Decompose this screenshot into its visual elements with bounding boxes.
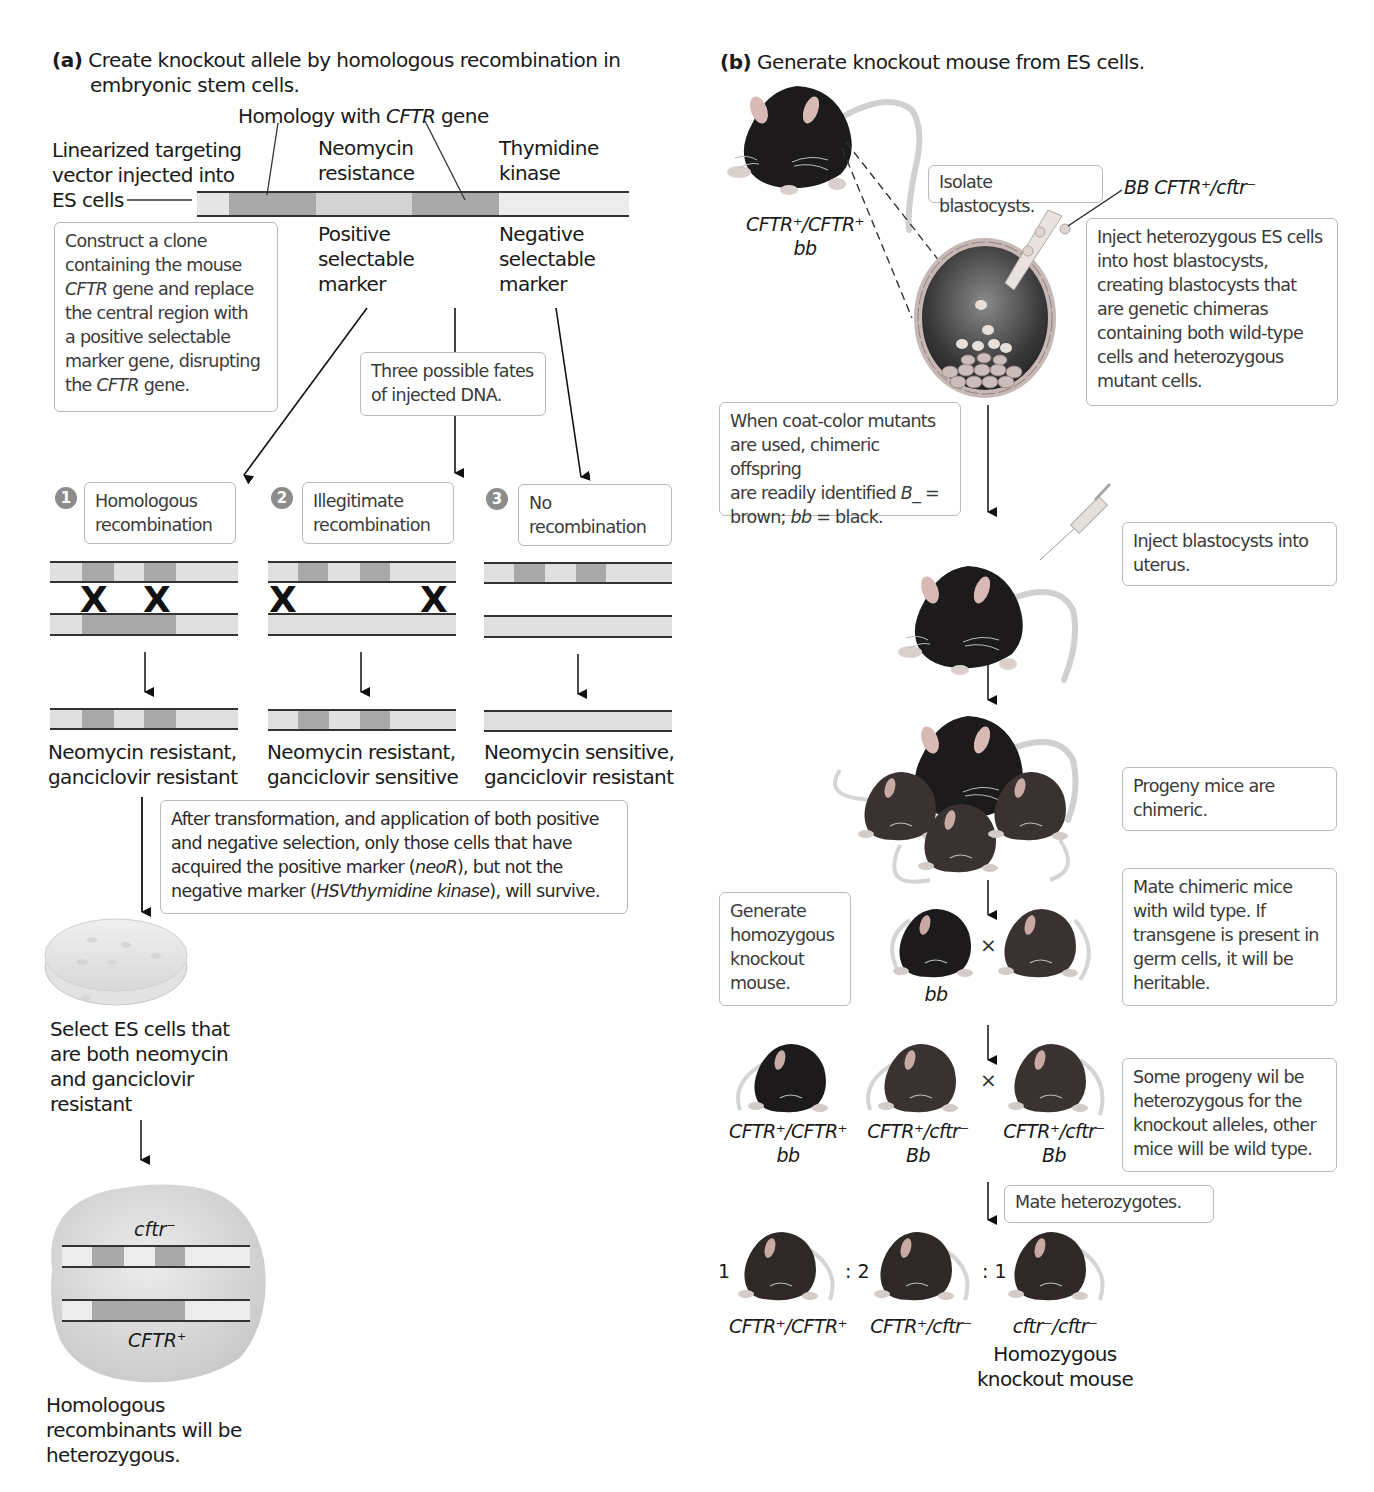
negative-marker-label: Negativeselectablemarker	[499, 222, 595, 297]
inject-uterus-box: Inject blastocysts intouterus.	[1122, 522, 1337, 586]
ratio-1: 1	[718, 1260, 730, 1282]
homologous-recombinants-label: Homologousrecombinants will beheterozygo…	[46, 1393, 242, 1468]
allele-cftr-plus: CFTR+	[128, 1329, 186, 1351]
thymidine-kinase-label: Thymidinekinase	[499, 136, 599, 186]
step-badge-2: 2	[271, 487, 293, 509]
homozygous-knockout-label: Homozygousknockout mouse	[970, 1342, 1140, 1392]
no-recombination-box: Norecombination	[518, 484, 672, 546]
three-fates-box: Three possible fatesof injected DNA.	[360, 352, 546, 416]
homology-label: Homology with CFTR gene	[238, 104, 489, 129]
cross-symbol-1: ×	[980, 933, 997, 957]
cross-symbol-2: ×	[980, 1068, 997, 1092]
result-dna-1	[50, 709, 238, 729]
f2-mouse-3-label: cftr⁻/cftr⁻	[980, 1314, 1130, 1338]
crossover-x: X	[80, 579, 108, 620]
f2-mouse-1-label: CFTR⁺/CFTR⁺	[722, 1314, 854, 1338]
inject-es-cells-box: Inject heterozygous ES cellsinto host bl…	[1086, 218, 1338, 406]
isolate-blastocysts-box: Isolate blastocysts.	[928, 165, 1103, 203]
cross1-coat-label: bb	[918, 982, 954, 1006]
homology-pointer-right	[425, 121, 465, 200]
f1-mouse-2-label: CFTR⁺/cftr⁻Bb	[858, 1119, 978, 1167]
selection-info-box: After transformation, and application of…	[160, 800, 628, 914]
outcome-2-dna: X X	[268, 562, 456, 635]
positive-marker-label: Positiveselectablemarker	[318, 222, 414, 297]
ratio-2: : 2	[845, 1260, 870, 1282]
panel-b-label: (b)	[720, 50, 751, 74]
neomycin-label: Neomycinresistance	[318, 136, 415, 186]
surrogate-mouse	[898, 566, 1075, 680]
targeting-vector-dna	[197, 192, 629, 216]
illegitimate-recombination-box: Illegitimaterecombination	[302, 482, 454, 544]
some-progeny-box: Some progeny wil beheterozygous for thek…	[1122, 1058, 1337, 1172]
panel-b-title: (b)Generate knockout mouse from ES cells…	[720, 50, 1145, 75]
construct-clone-box: Construct a clone containing the mouse C…	[54, 222, 278, 412]
panel-a-title: (a)Create knockout allele by homologous …	[52, 48, 621, 73]
homologous-recombination-box: Homologousrecombination	[84, 482, 236, 544]
coat-color-box: When coat-color mutants are used, chimer…	[719, 402, 961, 516]
panel-a-label: (a)	[52, 48, 82, 72]
f1-mice	[738, 1044, 1103, 1115]
outcome-3-dna	[484, 563, 672, 637]
progeny-chimeric-box: Progeny mice arechimeric.	[1122, 767, 1337, 831]
donor-mouse	[727, 86, 919, 230]
outcome-1-dna: X X	[50, 562, 238, 635]
mother-with-pups	[835, 716, 1076, 882]
f2-mouse-2-label: CFTR⁺/cftr⁻	[866, 1314, 976, 1338]
crossover-x: X	[269, 579, 297, 620]
es-cell	[51, 1184, 266, 1382]
es-cell-genotype-label: BB CFTR⁺/cftr⁻	[1124, 176, 1256, 198]
result-dna-3	[484, 711, 672, 731]
syringe-icon	[1040, 484, 1110, 560]
select-es-cells-label: Select ES cells thatare both neomycinand…	[50, 1017, 230, 1117]
f1-mouse-3-label: CFTR⁺/cftr⁻Bb	[994, 1119, 1114, 1167]
allele-cftr-minus: cftr−	[134, 1218, 176, 1240]
outcome-1-result: Neomycin resistant,ganciclovir resistant	[48, 740, 237, 790]
blastocyst	[918, 210, 1070, 394]
petri-dish	[45, 919, 187, 1005]
step-badge-1: 1	[55, 487, 77, 509]
outcome-3-result: Neomycin sensitive,ganciclovir resistant	[484, 740, 674, 790]
vector-label: Linearized targeting vector injected int…	[52, 138, 241, 213]
generate-homozygous-box: Generatehomozygousknockoutmouse.	[719, 892, 851, 1006]
panel-a-title-line2: embryonic stem cells.	[90, 73, 299, 98]
step-badge-3: 3	[486, 488, 508, 510]
donor-genotype: CFTR⁺/CFTR⁺bb	[740, 212, 870, 260]
homology-pointer-left	[267, 123, 278, 195]
mate-heterozygotes-box: Mate heterozygotes.	[1004, 1185, 1214, 1223]
mate-chimeric-box: Mate chimeric micewith wild type. Iftran…	[1122, 868, 1337, 1006]
outcome-2-result: Neomycin resistant,ganciclovir sensitive	[267, 740, 458, 790]
ratio-3: : 1	[982, 1260, 1007, 1282]
result-dna-2	[268, 710, 456, 730]
f1-mouse-1-label: CFTR⁺/CFTR⁺bb	[722, 1119, 854, 1167]
crossover-x: X	[143, 579, 171, 620]
f2-mice	[738, 1232, 1103, 1300]
crossover-x: X	[420, 579, 448, 620]
